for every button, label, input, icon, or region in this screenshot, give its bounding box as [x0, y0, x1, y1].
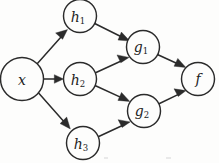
edge-x-to-h1 [37, 30, 67, 64]
node-h3[interactable]: h3 [67, 127, 100, 160]
edge-line [95, 60, 123, 73]
edge-line [98, 125, 124, 137]
node-h2[interactable]: h2 [64, 63, 97, 96]
edge-line [95, 24, 124, 39]
arrow-head-icon [118, 92, 130, 101]
scan-artifact [166, 157, 171, 159]
arrow-head-icon [54, 75, 63, 84]
edge-h3-to-g2 [98, 120, 130, 137]
node-label-x: x [18, 72, 26, 88]
node-x[interactable]: x [1, 58, 44, 101]
node-h1[interactable]: h1 [64, 0, 97, 33]
node-layer: x h1 h2 h3 g1 g2 [1, 0, 215, 160]
edge-g1-to-f [157, 55, 186, 68]
edge-g2-to-f [159, 89, 187, 104]
scan-artifact [104, 157, 108, 159]
node-g2[interactable]: g2 [128, 95, 161, 128]
diagram-canvas: x h1 h2 h3 g1 g2 [0, 0, 219, 163]
edge-layer [37, 24, 186, 137]
edge-x-to-h3 [39, 93, 71, 129]
edge-h2-to-g2 [95, 86, 130, 102]
edge-h2-to-g1 [95, 55, 129, 73]
edge-line [37, 35, 63, 64]
node-f[interactable]: f [182, 63, 215, 96]
edge-line [95, 86, 124, 99]
node-g1[interactable]: g1 [127, 31, 160, 64]
edge-x-to-h2 [44, 75, 64, 84]
arrow-head-icon [174, 58, 186, 67]
arrow-head-icon [56, 30, 68, 40]
edge-h1-to-g1 [95, 24, 130, 42]
edge-line [39, 93, 66, 124]
computational-graph: x h1 h2 h3 g1 g2 [0, 0, 219, 163]
edge-line [159, 94, 181, 104]
